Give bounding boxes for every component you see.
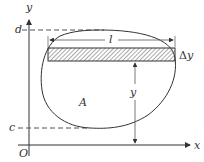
strip-height-label: Δy bbox=[179, 50, 193, 61]
diagram-graphics bbox=[0, 0, 204, 162]
strip-distance-label: y bbox=[130, 87, 136, 98]
strip-height-var: y bbox=[187, 49, 193, 62]
delta-symbol: Δ bbox=[179, 49, 187, 62]
origin-label: O bbox=[19, 148, 28, 159]
bottom-bound-label: c bbox=[9, 122, 15, 133]
y-axis-label: y bbox=[26, 2, 32, 13]
x-axis-label: x bbox=[194, 140, 200, 151]
top-bound-label: d bbox=[15, 24, 22, 35]
strip-length-label: l bbox=[109, 34, 113, 45]
region-label: A bbox=[79, 97, 87, 108]
hatched-strip bbox=[48, 48, 175, 61]
diagram-canvas: y x O d c l Δy y A bbox=[0, 0, 204, 162]
